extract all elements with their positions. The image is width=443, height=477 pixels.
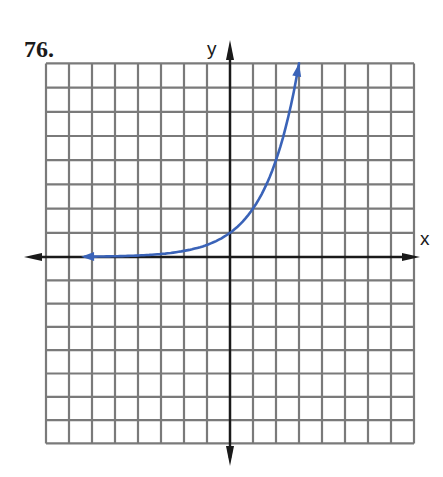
axes [24, 40, 420, 466]
x-axis-left-arrow-icon [24, 253, 42, 261]
y-axis-down-arrow-icon [226, 446, 234, 466]
curve-left-arrow-icon [81, 252, 94, 261]
x-axis-right-arrow-icon [402, 253, 420, 261]
coordinate-plane [0, 0, 443, 477]
y-axis-up-arrow-icon [226, 40, 234, 60]
